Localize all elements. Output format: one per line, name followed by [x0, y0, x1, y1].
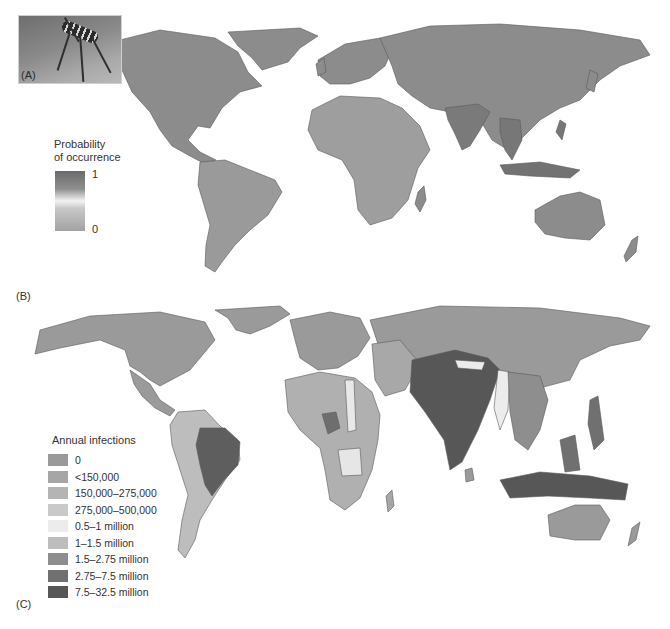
- north-america: [110, 30, 262, 164]
- indonesia: [500, 162, 580, 178]
- india: [410, 350, 500, 470]
- indonesia: [500, 472, 628, 500]
- legend-swatch: [48, 586, 68, 598]
- probability-legend-title: Probability of occurrence: [54, 138, 121, 164]
- europe: [290, 312, 370, 370]
- legend-swatch: [48, 487, 68, 499]
- madagascar: [386, 490, 394, 512]
- legend-row: 275,000–500,000: [48, 502, 157, 519]
- legend-row: 1.5–2.75 million: [48, 551, 157, 568]
- legend-title-line1: Probability: [54, 138, 121, 151]
- legend-swatch: [48, 537, 68, 549]
- legend-row: <150,000: [48, 469, 157, 486]
- legend-label: <150,000: [75, 471, 119, 483]
- legend-title-line2: of occurrence: [54, 151, 121, 164]
- legend-swatch: [48, 520, 68, 532]
- southeast-asia: [508, 372, 548, 450]
- sri-lanka: [465, 468, 474, 482]
- new-zealand: [628, 522, 640, 546]
- legend-row: 150,000–275,000: [48, 485, 157, 502]
- india: [445, 104, 490, 150]
- australia: [535, 192, 605, 240]
- europe: [318, 38, 392, 84]
- ramp-max-label: 1: [92, 168, 98, 180]
- legend-swatch: [48, 471, 68, 483]
- legend-swatch: [48, 504, 68, 516]
- philippines: [588, 396, 604, 450]
- legend-row: 2.75–7.5 million: [48, 568, 157, 585]
- legend-title: Annual infections: [52, 434, 157, 446]
- mosquito-photo: (A): [18, 15, 122, 84]
- legend-row: 0.5–1 million: [48, 518, 157, 535]
- legend-row: 1–1.5 million: [48, 535, 157, 552]
- legend-label: 275,000–500,000: [75, 504, 157, 516]
- legend-label: 1–1.5 million: [75, 537, 134, 549]
- legend-swatch: [48, 570, 68, 582]
- legend-row: 7.5–32.5 million: [48, 584, 157, 601]
- legend-label: 1.5–2.75 million: [75, 553, 149, 565]
- ramp-min-label: 0: [92, 223, 98, 235]
- legend-label: 150,000–275,000: [75, 487, 157, 499]
- southeast-asia: [500, 118, 522, 160]
- australia: [548, 505, 610, 540]
- new-zealand: [624, 236, 638, 262]
- annual-infections-legend: Annual infections 0<150,000150,000–275,0…: [48, 434, 157, 601]
- south-america: [198, 160, 282, 272]
- madagascar: [415, 186, 426, 212]
- africa: [308, 96, 430, 225]
- legend-label: 0.5–1 million: [75, 520, 134, 532]
- africa: [285, 372, 380, 510]
- legend-label: 7.5–32.5 million: [75, 586, 149, 598]
- legend-label: 0: [75, 454, 81, 466]
- panel-label-a: (A): [21, 69, 36, 81]
- legend-swatch: [48, 553, 68, 565]
- panel-label-c: (C): [16, 598, 31, 610]
- probability-color-ramp: [55, 171, 85, 231]
- greenland: [215, 306, 290, 334]
- east-africa: [338, 448, 362, 476]
- legend-label: 2.75–7.5 million: [75, 570, 149, 582]
- north-america: [35, 312, 215, 386]
- legend-swatch: [48, 454, 68, 466]
- legend-row: 0: [48, 452, 157, 469]
